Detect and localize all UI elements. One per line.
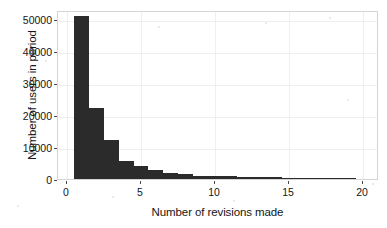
x-axis-title: Number of revisions made bbox=[57, 206, 378, 218]
scan-speck bbox=[233, 200, 235, 202]
histogram-bar bbox=[311, 178, 326, 179]
gridline-horizontal bbox=[58, 85, 377, 86]
scan-speck bbox=[265, 22, 267, 24]
x-tick-label: 5 bbox=[125, 186, 155, 198]
gridline-vertical bbox=[363, 12, 364, 179]
histogram-bar bbox=[326, 178, 341, 179]
y-tick-label: 50000 bbox=[23, 14, 52, 26]
y-tick-label: 30000 bbox=[23, 78, 52, 90]
scan-speck bbox=[329, 17, 331, 19]
gridline-horizontal bbox=[58, 117, 377, 118]
histogram-bar bbox=[163, 173, 178, 179]
x-tick-mark bbox=[214, 181, 215, 184]
histogram-bar bbox=[208, 176, 223, 179]
y-tick-mark bbox=[54, 180, 57, 181]
histogram-bar bbox=[89, 108, 104, 179]
histogram-bar bbox=[222, 176, 237, 179]
scan-speck bbox=[112, 196, 114, 198]
histogram-bar bbox=[296, 178, 311, 179]
scan-speck bbox=[347, 99, 349, 101]
y-tick-label: 20000 bbox=[23, 110, 52, 122]
histogram-bar bbox=[178, 174, 193, 179]
x-tick-label: 10 bbox=[199, 186, 229, 198]
histogram-figure: Number of users in period Number of revi… bbox=[0, 0, 387, 228]
histogram-bar bbox=[237, 177, 252, 179]
x-tick-mark bbox=[288, 181, 289, 184]
histogram-bar bbox=[74, 16, 89, 179]
histogram-bar bbox=[104, 140, 119, 179]
x-tick-label: 0 bbox=[51, 186, 81, 198]
y-tick-label: 0 bbox=[46, 174, 52, 186]
plot-area bbox=[57, 11, 378, 180]
gridline-horizontal bbox=[58, 21, 377, 22]
histogram-bar bbox=[282, 178, 297, 179]
histogram-bar bbox=[148, 170, 163, 179]
scan-speck bbox=[158, 26, 160, 28]
y-tick-label: 40000 bbox=[23, 46, 52, 58]
gridline-vertical bbox=[67, 12, 68, 179]
scan-speck bbox=[17, 205, 19, 207]
histogram-bar bbox=[341, 178, 356, 179]
scan-speck bbox=[200, 213, 202, 215]
histogram-bar bbox=[267, 177, 282, 179]
gridline-vertical bbox=[289, 12, 290, 179]
y-tick-label: 10000 bbox=[23, 142, 52, 154]
histogram-bar bbox=[252, 177, 267, 179]
scan-speck bbox=[372, 183, 374, 185]
x-tick-label: 15 bbox=[273, 186, 303, 198]
histogram-bar bbox=[134, 166, 149, 179]
histogram-bar bbox=[193, 176, 208, 179]
x-tick-mark bbox=[362, 181, 363, 184]
gridline-vertical bbox=[215, 12, 216, 179]
x-tick-mark bbox=[140, 181, 141, 184]
scan-speck bbox=[45, 60, 47, 62]
y-axis-title: Number of users in period bbox=[26, 0, 38, 190]
histogram-bar bbox=[119, 161, 134, 179]
x-tick-label: 20 bbox=[347, 186, 377, 198]
x-tick-mark bbox=[66, 181, 67, 184]
gridline-horizontal bbox=[58, 53, 377, 54]
gridline-vertical bbox=[141, 12, 142, 179]
